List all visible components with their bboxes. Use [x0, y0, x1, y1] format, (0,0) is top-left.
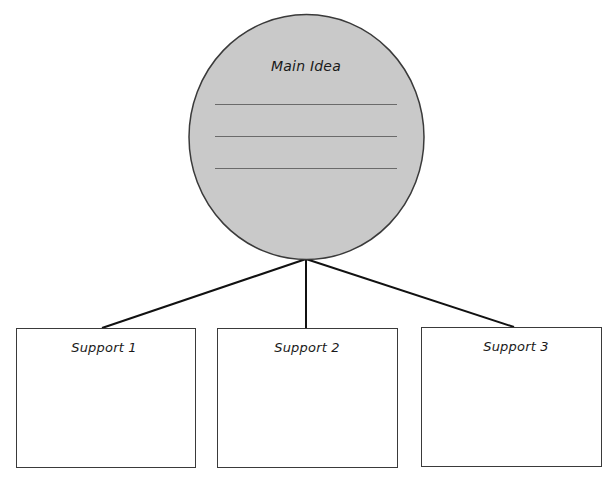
- main-idea-circle: [189, 15, 424, 260]
- connector-support-3: [306, 259, 514, 327]
- main-idea-line-1[interactable]: [215, 104, 397, 105]
- connector-support-1: [102, 259, 306, 328]
- support-label-1: Support 1: [71, 340, 137, 355]
- main-idea-line-3[interactable]: [215, 168, 397, 169]
- main-idea-title: Main Idea: [271, 58, 341, 74]
- main-idea-line-2[interactable]: [215, 136, 397, 137]
- support-label-3: Support 3: [483, 339, 549, 354]
- support-label-2: Support 2: [274, 340, 340, 355]
